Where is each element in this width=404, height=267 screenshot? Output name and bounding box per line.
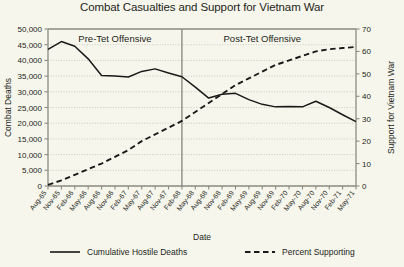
y2-tick-label: 40 xyxy=(362,92,371,101)
y-tick-label: 45,000 xyxy=(18,41,43,50)
y-tick-label: 40,000 xyxy=(18,56,43,65)
y2-tick-label: 0 xyxy=(362,182,367,191)
y2-tick-label: 30 xyxy=(362,115,371,124)
y-tick-label: 25,000 xyxy=(18,104,43,113)
x-axis-title: Date xyxy=(193,232,211,242)
y-tick-label: 30,000 xyxy=(18,88,43,97)
x-axis-ticks: Aug-65Nov-65Feb-66May-66Aug-66Nov-66Feb-… xyxy=(28,186,356,213)
y-tick-label: 5,000 xyxy=(22,166,43,175)
y-axis-ticks: 05,00010,00015,00020,00025,00030,00035,0… xyxy=(18,25,48,191)
y2-axis-ticks: 010203040506070 xyxy=(356,25,371,191)
y-axis-title: Combat Deaths xyxy=(3,78,13,137)
chart-container: Combat Casualties and Support for Vietna… xyxy=(0,0,404,267)
y2-tick-label: 10 xyxy=(362,160,371,169)
legend-label-percent-supporting: Percent Supporting xyxy=(282,247,355,257)
y2-axis-title: Support for Vietnam War xyxy=(386,61,396,154)
legend-label-cumulative-hostile-deaths: Cumulative Hostile Deaths xyxy=(87,247,187,257)
section-label-pre-tet-offensive: Pre-Tet Offensive xyxy=(78,33,151,44)
y-tick-label: 20,000 xyxy=(18,119,43,128)
chart-legend: Cumulative Hostile DeathsPercent Support… xyxy=(50,247,355,257)
y-tick-label: 35,000 xyxy=(18,72,43,81)
section-annotations: Pre-Tet OffensivePost-Tet Offensive xyxy=(78,33,301,44)
y-tick-label: 10,000 xyxy=(18,151,43,160)
axis-titles: Combat DeathsSupport for Vietnam WarDate xyxy=(3,61,396,242)
section-label-post-tet-offensive: Post-Tet Offensive xyxy=(224,33,301,44)
y2-tick-label: 70 xyxy=(362,25,371,34)
y-tick-label: 15,000 xyxy=(18,135,43,144)
series-line-percent-supporting xyxy=(48,47,356,185)
chart-plot: 05,00010,00015,00020,00025,00030,00035,0… xyxy=(0,0,404,267)
series-line-cumulative-hostile-deaths xyxy=(48,42,356,122)
y2-tick-label: 50 xyxy=(362,70,371,79)
y-tick-label: 50,000 xyxy=(18,25,43,34)
y2-tick-label: 20 xyxy=(362,137,371,146)
data-series xyxy=(48,42,356,185)
y2-tick-label: 60 xyxy=(362,47,371,56)
